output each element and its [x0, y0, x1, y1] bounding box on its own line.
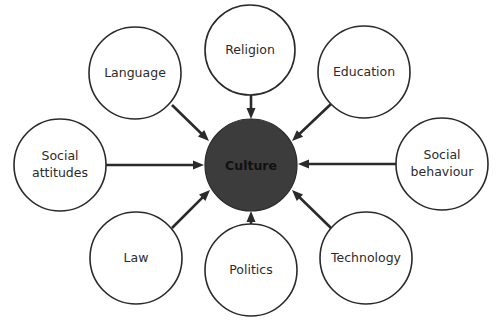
node-label: Education [333, 64, 395, 79]
arrow-religion-to-culture [247, 95, 256, 119]
node-social-attitudes: Socialattitudes [14, 119, 106, 211]
arrow-shaft [172, 196, 204, 228]
node-label: Law [124, 250, 149, 265]
node-label: Social [41, 148, 78, 163]
arrowhead-icon [247, 108, 256, 119]
node-education: Education [318, 26, 410, 118]
arrow-technology-to-culture [292, 190, 331, 228]
culture-label: Culture [225, 158, 277, 173]
node-law: Law [90, 212, 182, 304]
node-label: Social [423, 147, 460, 162]
node-label: Politics [229, 262, 272, 277]
arrow-shaft [298, 196, 331, 228]
arrowhead-icon [247, 211, 256, 222]
arrow-education-to-culture [292, 104, 331, 141]
arrowhead-icon [193, 161, 204, 170]
arrow-shaft [299, 104, 331, 135]
node-technology: Technology [320, 212, 412, 304]
arrow-politics-to-culture [247, 211, 256, 224]
node-label: Technology [330, 250, 402, 265]
node-politics: Politics [205, 224, 297, 316]
center-node: Culture [205, 119, 297, 211]
node-label: Religion [225, 42, 275, 57]
arrow-shaft [172, 105, 203, 135]
node-language: Language [89, 27, 181, 119]
node-label: Language [104, 65, 166, 80]
arrow-social-behaviour-to-culture [298, 160, 396, 169]
node-social-behaviour: Socialbehaviour [396, 118, 488, 210]
arrow-law-to-culture [172, 190, 210, 228]
node-label: behaviour [411, 164, 475, 179]
culture-influences-diagram: LanguageReligionEducationSocialattitudes… [0, 0, 498, 328]
arrowhead-icon [298, 160, 309, 169]
arrow-social-attitudes-to-culture [106, 161, 204, 170]
node-label: attitudes [32, 165, 88, 180]
arrow-language-to-culture [172, 105, 209, 141]
node-religion: Religion [205, 5, 295, 95]
